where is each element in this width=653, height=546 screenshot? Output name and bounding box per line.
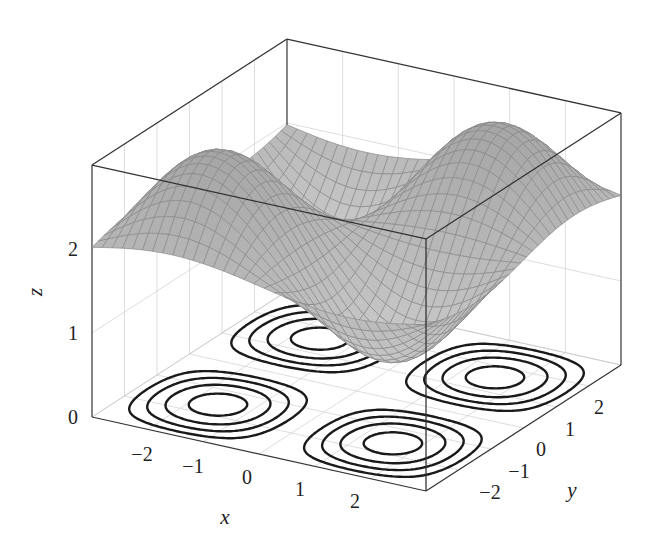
surface-mesh xyxy=(92,122,621,363)
y-axis-ticks: −2 −1 0 1 2 xyxy=(479,396,604,503)
x-tick-label: −2 xyxy=(131,443,152,465)
x-axis-label: x xyxy=(219,505,230,529)
z-tick-label: 2 xyxy=(68,238,78,260)
z-tick-label: 0 xyxy=(68,406,78,428)
surface-plot-3d: 0 1 2 z −2 −1 0 1 2 x −2 −1 0 1 2 y xyxy=(0,0,653,546)
y-axis-label: y xyxy=(565,478,577,502)
y-tick-label: 0 xyxy=(536,438,546,460)
x-tick-label: 2 xyxy=(350,490,360,512)
z-tick-label: 1 xyxy=(68,322,78,344)
y-tick-label: 2 xyxy=(594,396,604,418)
x-tick-label: 1 xyxy=(295,478,305,500)
x-tick-label: −1 xyxy=(182,455,203,477)
y-tick-label: 1 xyxy=(565,418,575,440)
z-axis-ticks: 0 1 2 xyxy=(68,238,78,428)
y-tick-label: −1 xyxy=(508,460,529,482)
grid-line xyxy=(189,354,523,428)
y-tick-label: −2 xyxy=(479,481,500,503)
x-tick-label: 0 xyxy=(242,466,252,488)
z-axis-label: z xyxy=(23,288,47,297)
